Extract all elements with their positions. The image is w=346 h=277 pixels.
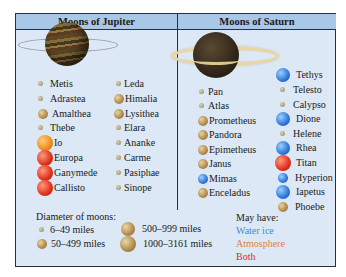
medium-moon-icon: [198, 130, 208, 140]
both-moon-icon: [37, 150, 53, 166]
legend-may-have-title: May have:: [236, 212, 279, 223]
medium-moon-icon: [198, 159, 208, 169]
medium-moon-icon: [198, 188, 208, 198]
moon-prometheus: Prometheus: [198, 114, 256, 127]
medium-moon-icon: [114, 94, 124, 104]
small-moon-icon: [38, 81, 43, 86]
small-moon-icon: [280, 131, 285, 136]
moon-pandora: Pandora: [198, 128, 242, 141]
moon-rhea: Rhea: [276, 141, 317, 154]
small-moon-icon: [116, 185, 121, 190]
moon-ananke: Ananke: [113, 136, 155, 149]
moon-himalia: Himalia: [114, 92, 157, 105]
jupiter-header: Moons of Jupiter: [16, 14, 177, 30]
moon-europa: Europa: [39, 151, 83, 164]
moon-lysithea: Lysithea: [114, 107, 159, 120]
moon-phoebe: Phoebe: [278, 200, 324, 213]
large-moon-icon: [121, 222, 135, 236]
small-moon-icon: [116, 125, 121, 130]
legend-water-ice: Water ice: [236, 225, 274, 236]
moon-atlas: Atlas: [197, 99, 229, 112]
moon-janus: Janus: [198, 157, 231, 170]
medium-moon-icon: [114, 109, 124, 119]
jupiter-planet-icon: [45, 22, 89, 66]
small-moon-icon: [38, 96, 43, 101]
small-moon-icon: [280, 87, 285, 92]
water-ice-moon-icon: [278, 173, 288, 183]
moon-thebe: Thebe: [34, 121, 75, 134]
water-ice-moon-icon: [276, 112, 290, 126]
atmosphere-moon-icon: [37, 135, 53, 151]
moon-pasiphae: Pasiphae: [113, 166, 160, 179]
moon-calypso: Calypso: [278, 98, 326, 111]
small-moon-icon: [116, 155, 121, 160]
both-moon-icon: [37, 165, 53, 181]
small-moon-icon: [116, 81, 121, 86]
small-moon-icon: [39, 227, 44, 232]
small-moon-icon: [199, 89, 204, 94]
xlarge-moon-icon: [120, 236, 136, 252]
moon-elara: Elara: [113, 121, 145, 134]
legend-both: Both: [236, 251, 255, 262]
moon-callisto: Callisto: [39, 181, 85, 194]
moon-helene: Helene: [278, 127, 321, 140]
both-moon-icon: [37, 180, 53, 196]
column-divider: [177, 14, 178, 210]
small-moon-icon: [199, 103, 204, 108]
legend-size-medium: 50–499 miles: [37, 237, 105, 250]
moon-dione: Dione: [276, 112, 320, 125]
water-ice-moon-icon: [198, 174, 208, 184]
moon-enceladus: Enceladus: [198, 186, 250, 199]
moon-sinope: Sinope: [113, 181, 152, 194]
water-ice-moon-icon: [276, 141, 290, 155]
saturn-ring-front-icon: [193, 56, 239, 65]
legend-size-large: 500–999 miles: [121, 222, 201, 235]
both-moon-icon: [275, 155, 291, 171]
moon-leda: Leda: [113, 77, 144, 90]
medium-moon-icon: [198, 116, 208, 126]
moon-titan: Titan: [275, 156, 317, 169]
moon-pan: Pan: [197, 85, 223, 98]
moon-ganymede: Ganymede: [39, 166, 97, 179]
saturn-planet-icon: [193, 32, 239, 78]
moon-epimetheus: Epimetheus: [198, 143, 256, 156]
medium-moon-icon: [37, 239, 47, 249]
moon-io: Io: [39, 136, 62, 149]
moon-tethys: Tethys: [276, 68, 323, 81]
moon-amalthea: Amalthea: [37, 107, 91, 120]
water-ice-moon-icon: [276, 185, 290, 199]
moon-telesto: Telesto: [278, 83, 322, 96]
medium-moon-icon: [278, 202, 288, 212]
moon-carme: Carme: [113, 151, 151, 164]
legend-size-xlarge: 1000–3161 miles: [120, 237, 212, 250]
water-ice-moon-icon: [276, 68, 290, 82]
medium-moon-icon: [38, 109, 48, 119]
moon-hyperion: Hyperion: [278, 171, 333, 184]
legend-atmosphere: Atmosphere: [236, 238, 285, 249]
small-moon-icon: [38, 125, 43, 130]
small-moon-icon: [116, 140, 121, 145]
legend-size-small: 6–49 miles: [36, 223, 94, 236]
medium-moon-icon: [198, 145, 208, 155]
saturn-header: Moons of Saturn: [178, 14, 336, 30]
moon-adrastea: Adrastea: [34, 92, 86, 105]
moon-metis: Metis: [34, 77, 73, 90]
moon-mimas: Mimas: [198, 172, 237, 185]
small-moon-icon: [116, 170, 121, 175]
moon-iapetus: Iapetus: [276, 185, 325, 198]
small-moon-icon: [280, 102, 285, 107]
legend-diameter-title: Diameter of moons:: [36, 211, 116, 222]
